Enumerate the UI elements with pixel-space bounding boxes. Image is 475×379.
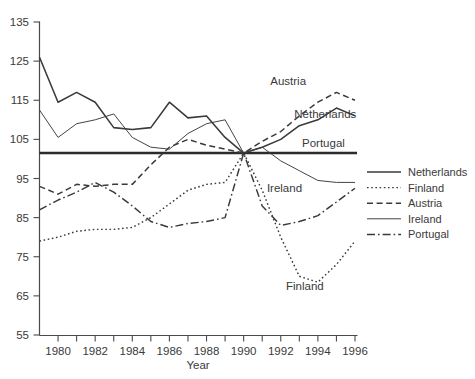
legend-item-portugal[interactable]: Portugal: [367, 228, 449, 240]
legend-label-finland: Finland: [408, 182, 444, 194]
x-tick-label: 1984: [119, 345, 145, 357]
series-line-portugal: [40, 153, 356, 227]
x-tick-labels: 198019821984198619881990199219941996: [45, 345, 368, 357]
legend-label-portugal: Portugal: [408, 228, 449, 240]
series-line-finland: [40, 153, 356, 282]
x-axis: 198019821984198619881990199219941996 Yea…: [40, 336, 368, 372]
y-tick-marks: [34, 22, 40, 335]
x-tick-label: 1994: [305, 345, 331, 357]
legend-item-ireland[interactable]: Ireland: [367, 213, 442, 225]
legend-label-ireland: Ireland: [408, 213, 442, 225]
y-tick-label: 135: [10, 16, 29, 28]
x-tick-label: 1986: [157, 345, 183, 357]
legend-label-netherlands: Netherlands: [408, 166, 468, 178]
y-tick-label: 95: [16, 173, 29, 185]
series-label-netherlands: Netherlands: [294, 108, 356, 120]
y-tick-labels: 1351251151059585756555: [10, 16, 29, 341]
chart-canvas: 1351251151059585756555 19801982198419861…: [0, 0, 475, 379]
legend: NetherlandsFinlandAustriaIrelandPortugal: [367, 166, 468, 240]
line-chart: 1351251151059585756555 19801982198419861…: [0, 0, 475, 379]
series-label-finland: Finland: [286, 280, 324, 292]
y-tick-label: 125: [10, 55, 29, 67]
y-tick-label: 65: [16, 290, 29, 302]
inline-series-labels: AustriaNetherlandsPortugalIrelandFinland: [267, 75, 357, 292]
y-tick-label: 75: [16, 251, 29, 263]
y-axis: 1351251151059585756555: [10, 16, 40, 341]
x-tick-label: 1988: [194, 345, 220, 357]
legend-label-austria: Austria: [408, 197, 443, 209]
legend-item-finland[interactable]: Finland: [367, 182, 444, 194]
series-label-portugal: Portugal: [302, 137, 345, 149]
x-tick-label: 1996: [342, 345, 368, 357]
y-tick-label: 85: [16, 212, 29, 224]
x-tick-label: 1982: [82, 345, 108, 357]
x-axis-title: Year: [186, 359, 209, 371]
y-tick-label: 105: [10, 133, 29, 145]
y-tick-label: 115: [11, 94, 29, 106]
x-tick-marks: [58, 336, 355, 342]
legend-item-netherlands[interactable]: Netherlands: [367, 166, 468, 178]
x-tick-label: 1992: [268, 345, 294, 357]
x-tick-label: 1990: [231, 345, 257, 357]
x-tick-label: 1980: [45, 345, 71, 357]
series-label-austria: Austria: [270, 75, 306, 87]
legend-item-austria[interactable]: Austria: [367, 197, 443, 209]
series-label-ireland: Ireland: [267, 182, 302, 194]
y-tick-label: 55: [16, 329, 29, 341]
series-group: [40, 57, 356, 282]
